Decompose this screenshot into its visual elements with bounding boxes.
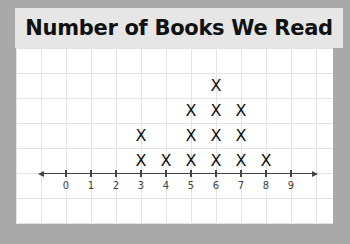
data-mark-x: X: [181, 128, 201, 144]
grid-line-horizontal: [16, 98, 333, 99]
tick-label: 1: [81, 180, 101, 191]
tick-label: 0: [56, 180, 76, 191]
number-line: [42, 173, 314, 175]
data-mark-x: X: [131, 153, 151, 169]
data-mark-x: X: [181, 103, 201, 119]
tick-mark: [240, 170, 242, 177]
data-mark-x: X: [206, 153, 226, 169]
tick-mark: [215, 170, 217, 177]
data-mark-x: X: [231, 128, 251, 144]
data-mark-x: X: [156, 153, 176, 169]
grid-line-horizontal: [16, 223, 333, 224]
data-mark-x: X: [206, 78, 226, 94]
tick-label: 4: [156, 180, 176, 191]
data-mark-x: X: [131, 128, 151, 144]
data-mark-x: X: [231, 153, 251, 169]
tick-label: 7: [231, 180, 251, 191]
tick-mark: [140, 170, 142, 177]
data-mark-x: X: [256, 153, 276, 169]
grid-line-horizontal: [16, 73, 333, 74]
grid-line-horizontal: [16, 198, 333, 199]
grid-line-horizontal: [16, 48, 333, 49]
grid-line-horizontal: [16, 148, 333, 149]
tick-label: 3: [131, 180, 151, 191]
tick-mark: [165, 170, 167, 177]
tick-label: 6: [206, 180, 226, 191]
arrow-left-icon: [38, 171, 44, 177]
tick-mark: [115, 170, 117, 177]
data-mark-x: X: [206, 103, 226, 119]
chart-title: Number of Books We Read: [25, 16, 333, 40]
data-mark-x: X: [206, 128, 226, 144]
arrow-right-icon: [312, 171, 318, 177]
tick-mark: [265, 170, 267, 177]
title-banner: Number of Books We Read: [15, 8, 343, 48]
tick-label: 8: [256, 180, 276, 191]
tick-mark: [90, 170, 92, 177]
tick-label: 9: [281, 180, 301, 191]
grid-line-horizontal: [16, 123, 333, 124]
tick-mark: [65, 170, 67, 177]
line-plot-panel: 0123456789XXXXXXXXXXXXXX: [16, 48, 333, 224]
tick-mark: [290, 170, 292, 177]
tick-label: 5: [181, 180, 201, 191]
data-mark-x: X: [231, 103, 251, 119]
data-mark-x: X: [181, 153, 201, 169]
tick-label: 2: [106, 180, 126, 191]
tick-mark: [190, 170, 192, 177]
